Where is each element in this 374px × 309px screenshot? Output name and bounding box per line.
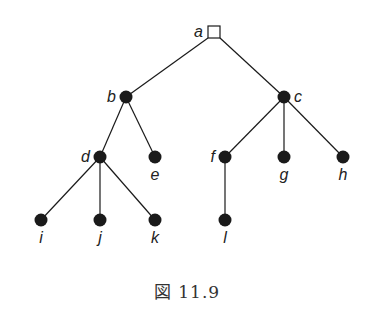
tree-nodes xyxy=(35,26,350,227)
edge-b-d xyxy=(100,97,126,157)
node-label-j: j xyxy=(96,229,102,246)
node-label-l: l xyxy=(223,229,227,246)
node-label-c: c xyxy=(294,88,302,105)
node-i xyxy=(35,214,48,227)
node-h xyxy=(337,151,350,164)
root-node-a xyxy=(208,26,220,38)
edge-c-h xyxy=(284,97,343,157)
node-label-f: f xyxy=(211,148,217,165)
node-label-i: i xyxy=(39,229,43,246)
node-b xyxy=(120,91,133,104)
node-c xyxy=(278,91,291,104)
tree-edges xyxy=(41,38,343,220)
node-label-a: a xyxy=(194,23,203,40)
tree-diagram: abcdefghijkl xyxy=(0,0,374,309)
node-label-d: d xyxy=(81,148,91,165)
node-d xyxy=(94,151,107,164)
tree-labels: abcdefghijkl xyxy=(39,23,347,246)
edge-d-k xyxy=(100,157,155,220)
figure-caption: 図 11.9 xyxy=(0,278,374,303)
node-j xyxy=(94,214,107,227)
node-label-h: h xyxy=(339,166,348,183)
edge-d-i xyxy=(41,157,100,220)
edge-c-f xyxy=(225,97,284,157)
node-g xyxy=(278,151,291,164)
node-k xyxy=(149,214,162,227)
node-label-g: g xyxy=(280,166,289,183)
edge-b-e xyxy=(126,97,155,157)
node-label-k: k xyxy=(151,229,160,246)
node-l xyxy=(219,214,232,227)
node-e xyxy=(149,151,162,164)
edge-a-c xyxy=(220,38,284,97)
node-label-b: b xyxy=(107,88,116,105)
node-label-e: e xyxy=(151,166,160,183)
node-f xyxy=(219,151,232,164)
edge-a-b xyxy=(126,38,208,97)
